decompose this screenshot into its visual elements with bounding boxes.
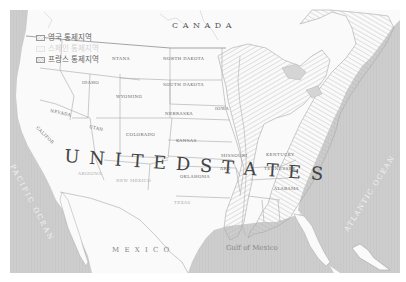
legend-label: 스페인 통제지역	[48, 43, 99, 54]
label-idaho: IDAHO	[82, 80, 99, 85]
map-legend: 영국 통제지역 스페인 통제지역 프랑스 통제지역	[36, 32, 99, 65]
label-kansas: KANSAS	[176, 138, 197, 143]
label-arkansas: ARK	[219, 166, 231, 171]
label-colorado: COLORADO	[126, 132, 155, 137]
label-iowa: IOWA	[215, 106, 229, 111]
french-swatch-icon	[36, 57, 45, 63]
label-canada: C A N A D A	[172, 21, 233, 30]
label-montana: NTANA	[112, 56, 131, 61]
label-alabama: ALABAMA	[273, 186, 300, 191]
label-north-dakota: NORTH DAKOTA	[163, 56, 205, 61]
label-texas: TEXAS	[174, 200, 191, 205]
label-wyoming: WYOMING	[116, 94, 143, 99]
legend-label: 프랑스 통제지역	[48, 54, 99, 65]
label-oklahoma: OKLAHOMA	[180, 174, 211, 179]
label-arizona: ARIZONA	[77, 171, 102, 176]
label-tennessee: TENNESSEE	[264, 166, 296, 171]
label-south-dakota: SOUTH DAKOTA	[163, 82, 204, 87]
label-mexico: M E X I C O	[112, 246, 171, 254]
label-kentucky: KENTUCKY	[266, 152, 294, 157]
label-missouri: MISSOURI	[221, 153, 248, 158]
label-new-mexico: NEW MEXICO	[116, 178, 151, 183]
legend-item-french: 프랑스 통제지역	[36, 54, 99, 65]
legend-item-british: 영국 통제지역	[36, 32, 99, 43]
legend-label: 영국 통제지역	[48, 32, 92, 43]
british-swatch-icon	[36, 35, 45, 41]
label-gulf-of-mexico: Gulf of Mexico	[226, 244, 278, 252]
legend-item-spanish: 스페인 통제지역	[36, 43, 99, 54]
spanish-swatch-icon	[36, 46, 45, 52]
label-nebraska: NEBRASKA	[165, 111, 194, 116]
